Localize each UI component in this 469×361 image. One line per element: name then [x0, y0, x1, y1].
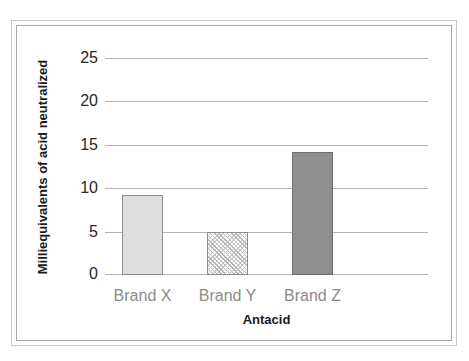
x-axis-tick-labels: Brand X Brand Y Brand Z [105, 288, 428, 310]
bar-brand-x [122, 195, 163, 275]
gridline-15 [105, 145, 428, 146]
y-tick-label-5: 5 [64, 224, 98, 240]
gridline-25 [105, 58, 428, 59]
x-tick-label-brand-x: Brand X [105, 288, 180, 304]
y-tick-label-15: 15 [64, 137, 98, 153]
y-axis-title: Milliequivalents of acid neutralized [36, 59, 49, 274]
bar-chart-figure: 25 20 15 10 5 0 Brand X Brand Y Brand Z … [0, 0, 469, 361]
gridline-20 [105, 101, 428, 102]
y-tick-label-25: 25 [64, 50, 98, 66]
y-tick-label-20: 20 [64, 93, 98, 109]
y-tick-label-10: 10 [64, 180, 98, 196]
bar-brand-y [207, 232, 248, 275]
x-tick-label-brand-z: Brand Z [275, 288, 350, 304]
x-tick-label-brand-y: Brand Y [190, 288, 265, 304]
x-axis-title: Antacid [105, 313, 428, 326]
gridline-10 [105, 188, 428, 189]
bar-brand-z [292, 152, 333, 275]
plot-area [105, 58, 428, 275]
y-axis-title-container: Milliequivalents of acid neutralized [31, 58, 53, 275]
y-tick-label-0: 0 [64, 266, 98, 282]
y-axis-tick-labels: 25 20 15 10 5 0 [60, 58, 98, 275]
